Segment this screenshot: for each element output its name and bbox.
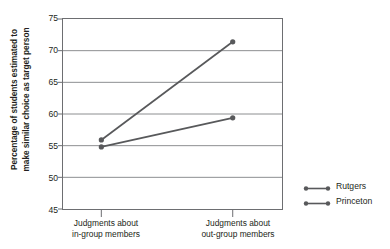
legend-swatch-rutgers — [303, 180, 331, 191]
series-line-princeton — [101, 118, 232, 147]
data-point-princeton-0 — [99, 144, 104, 149]
y-axis-title: Percentage of students estimated to make… — [0, 0, 40, 215]
y-tick-label-45: 45 — [36, 206, 58, 215]
x-tick-label-in-group: Judgments about in-group members — [40, 218, 172, 240]
legend-item-rutgers: Rutgers — [303, 178, 389, 193]
x-tick-label-out-group-line-2: out-group members — [172, 229, 304, 240]
data-point-rutgers-1 — [230, 39, 235, 44]
y-tick-label-75: 75 — [36, 14, 58, 23]
y-axis-tick-labels: 75 70 65 60 55 50 45 — [36, 0, 58, 220]
y-axis-title-line-1: Percentage of students estimated to — [9, 4, 21, 196]
y-tick-label-70: 70 — [36, 46, 58, 55]
line-chart-figure: Percentage of students estimated to make… — [0, 0, 390, 249]
y-tick-label-50: 50 — [36, 174, 58, 183]
legend-label-princeton: Princeton — [336, 196, 372, 206]
plot-area — [62, 18, 283, 210]
x-tick-label-in-group-line-1: Judgments about — [40, 218, 172, 229]
data-point-rutgers-0 — [99, 137, 104, 142]
series-line-rutgers — [101, 42, 232, 140]
data-point-princeton-1 — [230, 115, 235, 120]
y-tick-label-65: 65 — [36, 78, 58, 87]
x-tick-label-in-group-line-2: in-group members — [40, 229, 172, 240]
y-axis-title-line-2: make similar choice as target person — [20, 4, 32, 196]
legend-item-princeton: Princeton — [303, 193, 389, 208]
y-tick-label-55: 55 — [36, 142, 58, 151]
x-tick-label-out-group: Judgments about out-group members — [172, 218, 304, 240]
plot-svg — [63, 19, 282, 209]
x-tick-label-out-group-line-1: Judgments about — [172, 218, 304, 229]
legend-swatch-princeton — [303, 195, 331, 206]
legend-label-rutgers: Rutgers — [336, 181, 366, 191]
chart-legend: Rutgers Princeton — [303, 178, 389, 208]
y-tick-label-60: 60 — [36, 110, 58, 119]
